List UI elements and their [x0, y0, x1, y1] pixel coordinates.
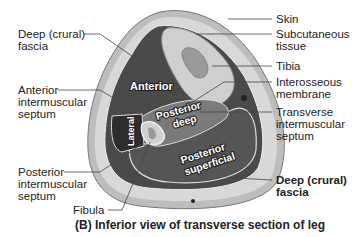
label-interosseous-membrane: Interosseous membrane [276, 76, 342, 100]
label-deep-crural-fascia-right: Deep (crural) fascia [276, 174, 347, 198]
label-line: septum [276, 130, 345, 142]
label-anterior-intermuscular-septum: Anterior intermuscular septum [18, 84, 87, 120]
vessel-dot [191, 199, 195, 203]
label-line: fascia [276, 186, 347, 198]
compartment-label-lateral: Lateral [126, 116, 136, 146]
compartment-label-anterior: Anterior [130, 80, 174, 92]
label-line: Interosseous [276, 76, 342, 88]
label-line: Tibia [276, 60, 301, 72]
label-line: Skin [276, 13, 298, 25]
label-line: Deep (crural) [276, 174, 347, 186]
label-transverse-intermuscular-septum: Transverse intermuscular septum [276, 106, 345, 142]
label-line: intermuscular [18, 96, 87, 108]
label-line: tissue [276, 40, 350, 52]
label-fibula: Fibula [73, 204, 104, 216]
label-subcutaneous-tissue: Subcutaneous tissue [276, 28, 350, 52]
label-line: Anterior [18, 84, 87, 96]
label-posterior-intermuscular-septum: Posterior intermuscular septum [18, 166, 87, 202]
label-line: membrane [276, 88, 342, 100]
label-tibia: Tibia [276, 60, 301, 72]
label-line: Posterior [18, 166, 87, 178]
label-deep-crural-fascia-left: Deep (crural) fascia [18, 28, 85, 52]
label-line: Deep (crural) [18, 28, 85, 40]
label-line: Subcutaneous [276, 28, 350, 40]
label-skin: Skin [276, 13, 298, 25]
label-line: septum [18, 190, 87, 202]
label-line: Fibula [73, 204, 104, 216]
figure-caption: (B) Inferior view of transverse section … [75, 218, 325, 232]
label-line: intermuscular [276, 118, 345, 130]
label-line: fascia [18, 40, 85, 52]
label-line: intermuscular [18, 178, 87, 190]
label-line: Transverse [276, 106, 345, 118]
label-line: septum [18, 108, 87, 120]
vessel-dot [241, 95, 247, 101]
